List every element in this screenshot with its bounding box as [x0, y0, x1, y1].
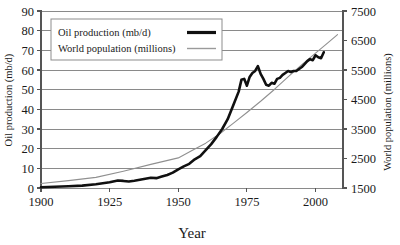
left-tick-label: 40	[22, 103, 35, 117]
legend-label-world-population: World population (millions)	[58, 43, 176, 55]
left-axis-title: Oil production (mb/d)	[3, 53, 15, 146]
left-tick-label: 70	[22, 44, 35, 58]
x-tick-label: 1975	[234, 195, 259, 209]
x-tick-label: 2000	[303, 195, 328, 209]
left-tick-label: 80	[22, 24, 35, 38]
right-tick-label: 5500	[351, 64, 376, 78]
left-tick-label: 30	[22, 123, 35, 137]
x-axis-title: Year	[178, 225, 206, 241]
oil-production-population-chart: 0102030405060708090 15002500350045005500…	[0, 0, 400, 245]
x-tick-label: 1925	[97, 195, 122, 209]
left-tick-label: 20	[22, 142, 35, 156]
right-tick-label: 6500	[351, 34, 376, 48]
left-tick-label: 60	[22, 64, 35, 78]
right-tick-label: 1500	[351, 182, 376, 196]
left-tick-label: 90	[22, 5, 35, 19]
right-axis-title: World population (millions)	[382, 53, 394, 171]
legend-label-oil-production: Oil production (mb/d)	[58, 27, 151, 39]
right-tick-label: 7500	[351, 5, 376, 19]
chart-legend: Oil production (mb/d) World population (…	[51, 19, 222, 60]
right-tick-label: 4500	[351, 93, 376, 107]
left-tick-label: 10	[22, 162, 35, 176]
chart-canvas: 0102030405060708090 15002500350045005500…	[0, 0, 400, 245]
right-tick-label: 2500	[351, 152, 376, 166]
left-tick-label: 50	[22, 83, 35, 97]
right-tick-label: 3500	[351, 123, 376, 137]
x-tick-label: 1900	[29, 195, 54, 209]
x-tick-label: 1950	[166, 195, 191, 209]
left-tick-label: 0	[28, 182, 34, 196]
